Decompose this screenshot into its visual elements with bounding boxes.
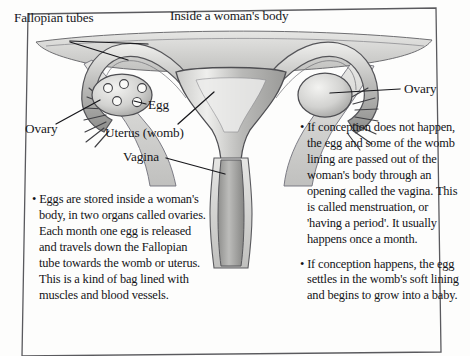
paragraph: • If conception does not happen, the egg… <box>300 120 462 248</box>
page-title: Inside a woman's body <box>170 9 289 23</box>
label-fallopian-tubes: Fallopian tubes <box>14 10 100 26</box>
uterus-body <box>176 68 286 161</box>
ovary-left <box>92 74 152 116</box>
label-ovary-left: Ovary <box>25 122 57 136</box>
ovary-right <box>298 73 352 117</box>
text-block-right: • If conception does not happen, the egg… <box>300 120 462 304</box>
paragraph: • Eggs are stored inside a woman's body,… <box>32 192 208 304</box>
label-egg: Egg <box>148 98 169 112</box>
text-block-left: • Eggs are stored inside a woman's body,… <box>32 192 208 304</box>
paragraph: • If conception happens, the egg settles… <box>300 257 462 305</box>
label-ovary-right: Ovary <box>404 82 436 96</box>
label-vagina: Vagina <box>123 150 159 164</box>
diagram-page: Inside a woman's body Fallopian tubes Eg… <box>0 0 470 356</box>
label-uterus: Uterus (womb) <box>105 126 184 140</box>
vaginal-canal <box>210 158 252 268</box>
